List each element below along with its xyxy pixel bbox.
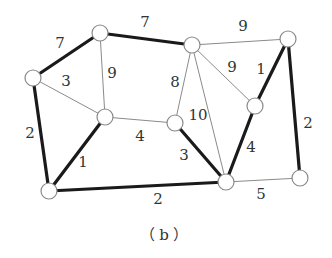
weighted-graph-diagram: 779392148109123425 — [0, 0, 332, 258]
graph-node-D — [280, 31, 296, 47]
edge-weight-label: 1 — [256, 60, 266, 78]
graph-node-H — [41, 183, 57, 199]
edge-B-C — [100, 33, 192, 45]
edge-D-J — [288, 39, 300, 178]
edge-weight-label: 3 — [179, 146, 189, 164]
edge-H-I — [49, 182, 226, 191]
edge-E-F — [105, 117, 175, 123]
graph-node-J — [292, 170, 308, 186]
graph-node-C — [184, 37, 200, 53]
edge-weight-label: 4 — [246, 138, 256, 156]
figure-caption: （b） — [0, 223, 332, 244]
edge-weight-label: 4 — [135, 127, 145, 145]
edge-weight-label: 2 — [303, 114, 313, 132]
edge-weight-label: 7 — [140, 13, 150, 31]
edge-weight-label: 5 — [256, 185, 266, 203]
edge-weight-label: 7 — [55, 34, 65, 52]
edge-A-H — [33, 78, 49, 191]
graph-node-I — [218, 174, 234, 190]
edge-weight-label: 2 — [153, 190, 163, 208]
edge-weight-label: 9 — [238, 17, 248, 35]
edge-weight-label: 9 — [107, 64, 117, 82]
graph-node-G — [247, 98, 263, 114]
graph-node-B — [92, 25, 108, 41]
graph-node-A — [25, 70, 41, 86]
edge-weight-label: 8 — [170, 73, 180, 91]
edge-weight-label: 1 — [78, 153, 88, 171]
edge-C-G — [192, 45, 255, 106]
edge-E-H — [49, 117, 105, 191]
edge-weight-label: 3 — [61, 72, 71, 90]
edge-C-D — [192, 39, 288, 45]
graph-node-E — [97, 109, 113, 125]
graph-node-F — [167, 115, 183, 131]
edge-B-E — [100, 33, 105, 117]
edge-weight-label: 2 — [25, 124, 35, 142]
edge-weight-label: 10 — [188, 106, 207, 124]
nodes-layer — [25, 25, 308, 199]
edge-weight-label: 9 — [227, 58, 237, 76]
edge-I-J — [226, 178, 300, 182]
